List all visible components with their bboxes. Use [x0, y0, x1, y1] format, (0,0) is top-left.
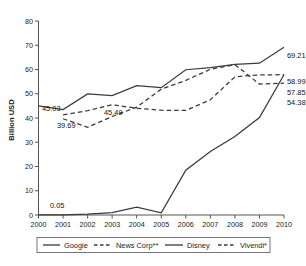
y-axis: 80 70 60 50 40 30 20 10 0	[25, 17, 39, 220]
y-tick-label: 60	[25, 65, 33, 74]
legend-label-disney[interactable]: Disney	[187, 241, 210, 250]
series-line-disney	[39, 47, 285, 109]
y-tick-label: 0	[29, 211, 33, 220]
series-group	[39, 47, 285, 215]
y-tick-label: 40	[25, 114, 33, 123]
x-axis: 2000 2001 2002 2003 2004 2005 2006 2007 …	[31, 215, 293, 229]
x-tick-label: 2005	[153, 220, 169, 229]
data-label-right-3: 57.85	[287, 88, 306, 97]
data-label-right-1: 69.21	[287, 51, 306, 60]
x-tick-label: 2007	[202, 220, 218, 229]
y-axis-label: Billion USD	[7, 99, 16, 141]
x-tick-label: 2009	[251, 220, 267, 229]
y-tick-label: 30	[25, 138, 33, 147]
data-label-right-2: 58.99	[287, 77, 306, 86]
legend-label-google[interactable]: Google	[64, 241, 88, 250]
caption-strip	[0, 254, 306, 266]
legend-label-vivendi[interactable]: Vivendi*	[240, 241, 267, 250]
figure: Billion USD 80 70 60 50 40 30 20 10 0	[0, 0, 306, 266]
x-tick-label: 2008	[227, 220, 243, 229]
y-tick-label: 50	[25, 89, 33, 98]
y-tick-label: 20	[25, 162, 33, 171]
data-label-vivendi-2003: 45.49	[104, 108, 123, 117]
legend-label-newscorp[interactable]: News Corp**	[116, 241, 158, 250]
y-tick-label: 80	[25, 17, 33, 26]
line-chart: Billion USD 80 70 60 50 40 30 20 10 0	[0, 0, 306, 266]
x-tick-label: 2001	[55, 220, 71, 229]
y-tick-label: 70	[25, 41, 33, 50]
y-tick-label: 10	[25, 186, 33, 195]
data-labels: 45.03 39.69 45.49 0.05 69.21 58.99 57.85…	[42, 51, 306, 210]
data-label-disney-2000: 45.03	[42, 104, 61, 113]
data-label-newscorp-2001: 39.69	[57, 121, 76, 130]
x-tick-label: 2010	[276, 220, 292, 229]
series-line-google	[39, 75, 285, 215]
x-tick-label: 2003	[104, 220, 120, 229]
x-tick-label: 2002	[80, 220, 96, 229]
data-label-google-2000: 0.05	[50, 201, 64, 210]
x-tick-label: 2000	[31, 220, 47, 229]
x-tick-label: 2006	[178, 220, 194, 229]
legend: Google News Corp** Disney Vivendi*	[37, 238, 270, 253]
data-label-right-4: 54.38	[287, 98, 306, 107]
x-tick-label: 2004	[129, 220, 145, 229]
series-line-newscorp	[63, 65, 284, 128]
